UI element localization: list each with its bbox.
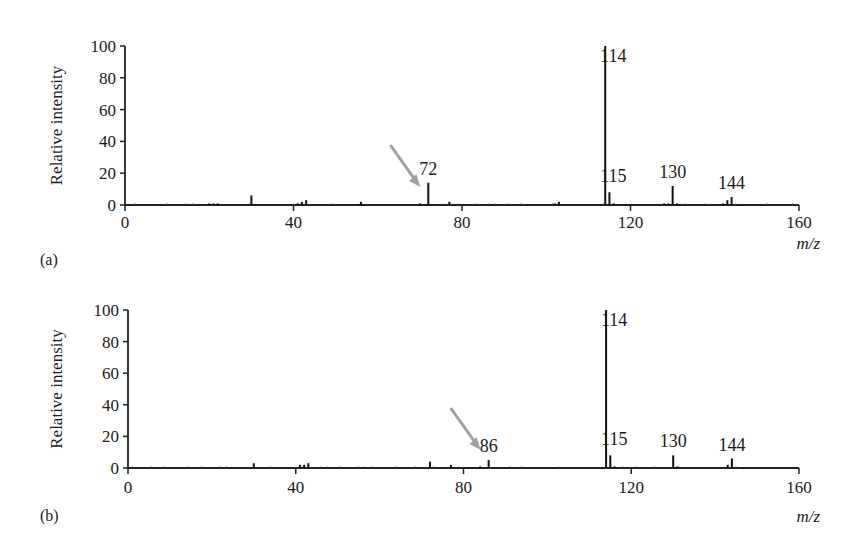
y-tick-label: 80 [99,69,116,88]
mass-spectra-figure: 02040608010004080120160Relative intensit… [0,0,854,547]
spectrum-panel-a: 02040608010004080120160Relative intensit… [40,37,820,269]
y-tick-label: 20 [102,427,119,446]
peak-label-130: 130 [660,431,687,451]
x-axis-title: m/z [796,234,820,253]
x-tick-label: 80 [455,478,472,497]
y-tick-label: 80 [102,333,119,352]
peak-label-115: 115 [600,166,626,186]
y-tick-label: 0 [108,196,117,215]
arrow-icon [451,408,481,450]
y-axis-title: Relative intensity [47,329,66,449]
x-tick-label: 120 [619,478,645,497]
peak-label-114: 114 [601,310,627,330]
y-tick-label: 100 [91,37,117,56]
x-tick-label: 0 [124,478,133,497]
panel-label: (b) [40,507,59,525]
y-tick-label: 60 [102,364,119,383]
x-tick-label: 80 [454,213,471,232]
x-tick-label: 0 [121,213,130,232]
y-axis-title: Relative intensity [47,65,66,185]
peak-label-130: 130 [659,162,686,182]
x-tick-label: 120 [618,213,644,232]
peak-label-144: 144 [718,173,745,193]
peak-label-114: 114 [600,46,626,66]
y-tick-label: 100 [94,301,120,320]
spectrum-panel-b: 02040608010004080120160Relative intensit… [40,301,820,526]
arrow-icon [390,145,420,187]
y-tick-label: 20 [99,164,116,183]
x-tick-label: 40 [285,213,302,232]
peak-label-144: 144 [718,435,745,455]
x-tick-label: 160 [786,478,812,497]
y-tick-label: 0 [111,459,120,478]
peak-label-86: 86 [480,436,498,456]
peak-label-115: 115 [601,429,627,449]
y-tick-label: 40 [102,396,119,415]
x-tick-label: 160 [786,213,812,232]
peak-label-72: 72 [419,159,437,179]
x-axis-title: m/z [796,507,820,526]
panel-label: (a) [40,251,58,269]
y-tick-label: 40 [99,132,116,151]
y-tick-label: 60 [99,101,116,120]
x-tick-label: 40 [287,478,304,497]
